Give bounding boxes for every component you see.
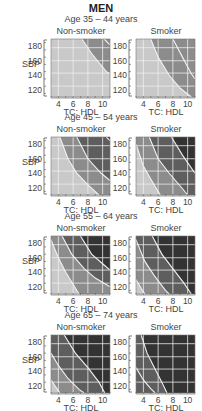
y-tick-label: 140 (113, 70, 127, 80)
y-tick-label: 120 (113, 381, 127, 391)
y-tick-label: 120 (113, 282, 127, 292)
y-tick-label: 180 (113, 337, 127, 347)
column-label-non-smoker: Non-smoker (46, 26, 116, 36)
y-tick-label: 140 (113, 168, 127, 178)
y-tick-label: 140 (28, 70, 42, 80)
y-tick-label: 160 (28, 154, 42, 164)
column-label-non-smoker: Non-smoker (46, 322, 116, 332)
y-tick-label: 160 (28, 56, 42, 66)
y-tick-label: 160 (113, 56, 127, 66)
y-tick-label: 120 (28, 183, 42, 193)
risk-panel: 12014016018046810 (106, 137, 202, 209)
y-tick-label: 180 (113, 139, 127, 149)
y-tick-label: 180 (113, 238, 127, 248)
risk-panel: 12014016018046810 (106, 335, 202, 407)
y-tick-label: 120 (28, 85, 42, 95)
chart-title: MEN (0, 2, 202, 14)
column-label-smoker: Smoker (131, 223, 201, 233)
y-tick-label: 180 (28, 337, 42, 347)
risk-panel: 12014016018046810 (106, 39, 202, 111)
age-group-label: Age 55 – 64 years (0, 211, 202, 221)
column-label-non-smoker: Non-smoker (46, 223, 116, 233)
x-axis-label: TC: HDL (131, 403, 201, 411)
y-tick-label: 140 (113, 366, 127, 376)
y-tick-label: 120 (113, 85, 127, 95)
y-tick-label: 160 (28, 352, 42, 362)
y-tick-label: 140 (28, 267, 42, 277)
y-tick-label: 180 (28, 139, 42, 149)
column-label-smoker: Smoker (131, 322, 201, 332)
y-tick-label: 140 (113, 267, 127, 277)
age-group-label: Age 45 – 54 years (0, 112, 202, 122)
y-tick-label: 120 (28, 282, 42, 292)
column-label-non-smoker: Non-smoker (46, 124, 116, 134)
y-tick-label: 120 (28, 381, 42, 391)
column-label-smoker: Smoker (131, 124, 201, 134)
y-tick-label: 160 (113, 154, 127, 164)
y-tick-label: 180 (28, 238, 42, 248)
age-group-label: Age 35 – 44 years (0, 14, 202, 24)
y-tick-label: 140 (28, 366, 42, 376)
y-tick-label: 180 (28, 41, 42, 51)
risk-panel: 12014016018046810 (106, 236, 202, 308)
y-tick-label: 160 (113, 253, 127, 263)
column-label-smoker: Smoker (131, 26, 201, 36)
y-tick-label: 160 (113, 352, 127, 362)
y-tick-label: 140 (28, 168, 42, 178)
y-tick-label: 180 (113, 41, 127, 51)
y-tick-label: 120 (113, 183, 127, 193)
age-group-label: Age 65 – 74 years (0, 310, 202, 320)
y-tick-label: 160 (28, 253, 42, 263)
